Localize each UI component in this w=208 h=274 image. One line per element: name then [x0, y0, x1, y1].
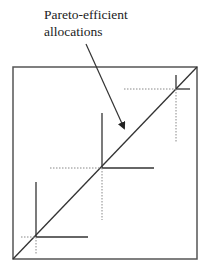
tangency-points-group	[21, 75, 190, 254]
annotation-arrow	[86, 44, 124, 128]
edgeworth-box-diagram	[0, 0, 208, 274]
contract-curve-line	[13, 67, 197, 259]
